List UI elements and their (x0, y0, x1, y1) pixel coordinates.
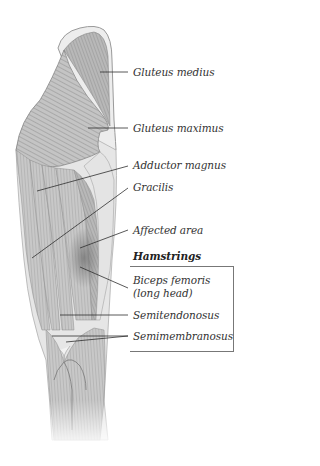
affected-area-shade (68, 228, 100, 288)
label-gracilis: Gracilis (133, 181, 173, 193)
label-adductor-magnus: Adductor magnus (133, 159, 226, 171)
label-gluteus-medius: Gluteus medius (133, 66, 214, 78)
label-semitendonosus: Semitendonosus (133, 309, 219, 321)
label-affected-area: Affected area (133, 224, 203, 236)
label-biceps-femoris: Biceps femoris (133, 274, 210, 286)
label-semimembranosus: Semimembranosus (133, 330, 233, 342)
label-hamstrings-heading: Hamstrings (133, 250, 201, 262)
label-gluteus-maximus: Gluteus maximus (133, 122, 224, 134)
label-biceps-femoris-long-head: (long head) (133, 287, 193, 299)
